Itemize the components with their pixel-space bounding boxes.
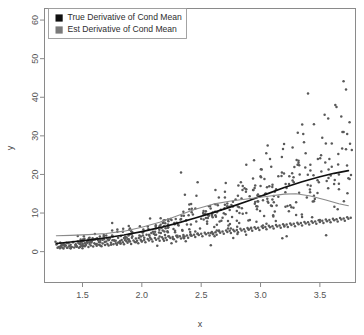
x-tick-label: 3.0 [254, 290, 267, 300]
scatter-point [260, 176, 263, 179]
scatter-point [219, 231, 222, 234]
scatter-point [337, 153, 340, 156]
scatter-point [309, 184, 312, 187]
scatter-point [181, 230, 184, 233]
scatter-point [224, 196, 227, 199]
scatter-point [251, 230, 254, 233]
scatter-point [111, 222, 114, 225]
scatter-point [233, 230, 236, 233]
scatter-point [236, 219, 239, 222]
scatter-point [350, 216, 353, 219]
scatter-point [311, 216, 314, 219]
scatter-point [244, 230, 247, 233]
scatter-point [180, 171, 183, 174]
scatter-point [68, 245, 71, 248]
scatter-point [297, 159, 300, 162]
scatter-point [277, 175, 280, 178]
scatter-point [294, 225, 297, 228]
scatter-point [125, 236, 128, 239]
scatter-point [350, 174, 353, 177]
scatter-point [110, 244, 113, 247]
scatter-point [342, 131, 345, 134]
x-tick-label: 2.5 [195, 290, 208, 300]
scatter-point [193, 233, 196, 236]
scatter-point [326, 220, 329, 223]
scatter-point [321, 137, 324, 140]
scatter-point [90, 244, 93, 247]
scatter-point [167, 231, 170, 234]
scatter-point [190, 223, 193, 226]
scatter-point [228, 209, 231, 212]
scatter-point [218, 220, 221, 223]
scatter-point [221, 230, 224, 233]
scatter-point [138, 237, 141, 240]
scatter-point [231, 216, 234, 219]
scatter-point [116, 228, 119, 231]
scatter-point [169, 237, 172, 240]
scatter-point [213, 235, 216, 238]
scatter-point [346, 164, 349, 167]
scatter-point [327, 117, 330, 120]
scatter-point [123, 243, 126, 246]
scatter-point [349, 142, 352, 145]
scatter-point [256, 208, 259, 211]
scatter-point [200, 218, 203, 221]
scatter-point [226, 231, 229, 234]
scatter-point [148, 239, 151, 242]
scatter-point [149, 217, 152, 220]
scatter-point [313, 123, 316, 126]
scatter-point [209, 232, 212, 235]
scatter-point [151, 240, 154, 243]
scatter-point [66, 246, 69, 249]
scatter-point [304, 152, 307, 155]
scatter-point [187, 236, 190, 239]
scatter-point [175, 240, 178, 243]
scatter-point [155, 238, 158, 241]
scatter-point [101, 242, 104, 245]
scatter-point [188, 228, 191, 231]
scatter-point [281, 237, 284, 240]
scatter-point [221, 216, 224, 219]
scatter-point [254, 201, 257, 204]
scatter-point [321, 220, 324, 223]
scatter-point [217, 204, 220, 207]
legend-swatch-1 [56, 26, 63, 33]
scatter-point [245, 234, 248, 237]
scatter-point [297, 132, 300, 135]
scatter-point [309, 191, 312, 194]
scatter-point [79, 246, 82, 249]
scatter-point [312, 221, 315, 224]
scatter-point [309, 188, 312, 191]
scatter-point [216, 229, 219, 232]
scatter-point [283, 172, 286, 175]
scatter-point [119, 240, 122, 243]
scatter-point [202, 218, 205, 221]
scatter-point [208, 234, 211, 237]
scatter-point [189, 234, 192, 237]
scatter-point [137, 242, 140, 245]
scatter-point [113, 239, 116, 242]
scatter-point [307, 221, 310, 224]
scatter-point [240, 229, 243, 232]
scatter-point [209, 207, 212, 210]
scatter-point [320, 154, 323, 157]
scatter-point [309, 164, 312, 167]
scatter-point [282, 148, 285, 151]
scatter-point [158, 235, 161, 238]
scatter-point [182, 210, 185, 213]
scatter-point [307, 92, 310, 95]
scatter-point [186, 234, 189, 237]
scatter-point [158, 231, 161, 234]
scatter-point [99, 235, 102, 238]
scatter-point [346, 192, 349, 195]
scatter-point [322, 222, 325, 225]
scatter-point [341, 147, 344, 150]
scatter-point [224, 213, 227, 216]
x-axis-title: x [198, 319, 203, 329]
scatter-point [59, 245, 62, 248]
scatter-point [205, 210, 208, 213]
scatter-point [301, 123, 304, 126]
y-tick-label: 30 [30, 131, 40, 141]
scatter-point [312, 174, 315, 177]
scatter-point [247, 219, 250, 222]
